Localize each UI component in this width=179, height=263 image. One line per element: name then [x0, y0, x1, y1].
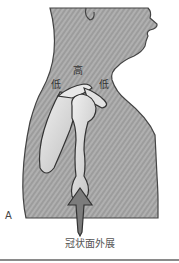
shoulder-abduction-illustration — [0, 0, 179, 263]
label-high: 高 — [73, 66, 83, 76]
divider — [0, 259, 179, 261]
label-low-left: 低 — [51, 80, 61, 90]
figure-caption: 冠状面外展 — [0, 235, 179, 250]
label-low-right: 低 — [99, 80, 109, 90]
panel-label: A — [5, 210, 12, 221]
